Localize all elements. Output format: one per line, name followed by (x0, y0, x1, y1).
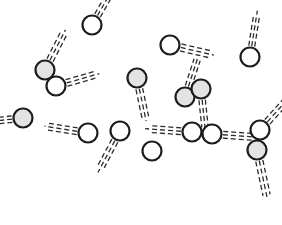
shaded-particle-circle (248, 141, 267, 160)
open-particle-circle (143, 142, 162, 161)
open-particle-circle (241, 48, 260, 67)
open-particle-circle (203, 125, 222, 144)
shaded-particle-circle (14, 109, 33, 128)
shaded-particle-circle (192, 80, 211, 99)
open-particle-circle (251, 121, 270, 140)
open-particle-circle (47, 77, 66, 96)
particle-group (143, 142, 162, 161)
open-particle-circle (111, 122, 130, 141)
open-particle-circle (79, 124, 98, 143)
scene-background (0, 0, 282, 225)
open-particle-circle (161, 36, 180, 55)
open-particle-circle (183, 123, 202, 142)
open-particle-circle (83, 16, 102, 35)
particle-diagram-canvas (0, 0, 282, 225)
shaded-particle-circle (128, 69, 147, 88)
particle-scene-svg (0, 0, 282, 225)
